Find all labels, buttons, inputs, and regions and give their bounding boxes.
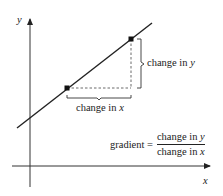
- change-in-x-var: x: [119, 102, 124, 113]
- point-a-marker: [65, 86, 70, 91]
- change-in-x-prefix: change in: [76, 102, 119, 113]
- change-in-x-brace: [67, 95, 131, 100]
- numerator-var: y: [200, 131, 205, 142]
- formula-numerator: change in y: [157, 131, 205, 143]
- x-axis-label: x: [203, 176, 208, 187]
- formula-lhs: gradient =: [110, 139, 153, 150]
- gradient-formula: gradient = change in y change in x: [110, 131, 205, 158]
- change-in-y-prefix: change in: [147, 57, 190, 68]
- change-in-x-label: change in x: [76, 103, 124, 114]
- denominator-prefix: change in: [157, 146, 200, 157]
- formula-denominator: change in x: [157, 146, 205, 158]
- y-axis-label: y: [17, 15, 22, 26]
- denominator-var: x: [200, 146, 205, 157]
- change-in-y-brace: [137, 39, 144, 88]
- change-in-y-var: y: [190, 57, 195, 68]
- gradient-diagram-canvas: [0, 0, 223, 196]
- change-in-y-label: change in y: [147, 58, 195, 69]
- formula-fraction: change in y change in x: [157, 131, 205, 158]
- numerator-prefix: change in: [157, 131, 200, 142]
- fraction-bar: [157, 144, 205, 145]
- point-b-marker: [129, 37, 134, 42]
